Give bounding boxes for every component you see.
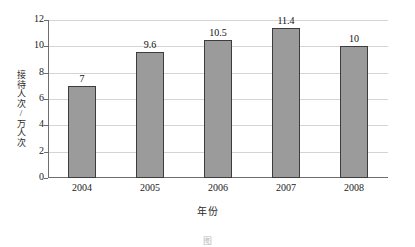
bar-value-label: 11.4 <box>252 15 320 26</box>
bar <box>136 52 164 178</box>
x-tick-label: 2005 <box>116 182 184 193</box>
x-tick-label: 2007 <box>252 182 320 193</box>
y-tick-mark <box>44 178 48 179</box>
bar-value-label: 9.6 <box>116 39 184 50</box>
bar-group: 10 <box>320 20 388 178</box>
bar <box>68 86 96 178</box>
bar-value-label: 10.5 <box>184 27 252 38</box>
y-tick-label: 2 <box>22 146 44 156</box>
y-tick-label: 10 <box>22 40 44 50</box>
bar <box>272 28 300 178</box>
y-tick-label: 4 <box>22 119 44 129</box>
bars-layer: 79.610.511.410 <box>48 20 388 178</box>
bar-group: 7 <box>48 20 116 178</box>
x-tick-label: 2006 <box>184 182 252 193</box>
y-tick-label: 8 <box>22 67 44 77</box>
bar <box>340 46 368 178</box>
bar-value-label: 10 <box>320 33 388 44</box>
x-tick-label: 2004 <box>48 182 116 193</box>
bar-group: 11.4 <box>252 20 320 178</box>
y-tick-label: 6 <box>22 93 44 103</box>
x-axis-title: 年份 <box>0 203 415 218</box>
bar-group: 9.6 <box>116 20 184 178</box>
bar-group: 10.5 <box>184 20 252 178</box>
x-tick-label: 2008 <box>320 182 388 193</box>
y-tick-label: 0 <box>22 172 44 182</box>
figure-caption: 图 <box>0 234 415 247</box>
y-tick-label: 12 <box>22 14 44 24</box>
bar-value-label: 7 <box>48 73 116 84</box>
bar <box>204 40 232 178</box>
